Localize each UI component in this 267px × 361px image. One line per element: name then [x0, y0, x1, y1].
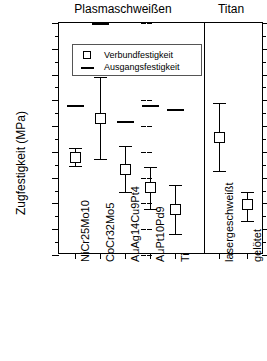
y-tick-800 [52, 49, 59, 50]
x-tick-1 [100, 253, 101, 259]
y-tick-600 [262, 100, 267, 101]
y-tick-100 [52, 229, 59, 230]
divider-tick-left-900 [141, 23, 146, 24]
y-minor-tick-50 [55, 242, 59, 243]
verbundfestigkeit-marker-1 [95, 113, 106, 124]
verbundfestigkeit-marker-6 [242, 199, 253, 210]
y-tick-800 [262, 49, 267, 50]
verbundfestigkeit-marker-2 [120, 164, 131, 175]
chart-legend: Verbundfestigkeit Ausgangsfestigkeit [72, 44, 202, 76]
error-cap-5-lower [213, 171, 226, 172]
x-axis-label-5: lasergeschweißt [223, 183, 235, 262]
x-axis-label-1: CoCr32Mo5 [104, 203, 116, 262]
x-tick-2 [125, 253, 126, 259]
x-axis-label-2: AuAg14Cu9Pt4 [129, 186, 141, 262]
error-cap-4-lower [169, 234, 182, 235]
y-minor-tick-250 [55, 191, 59, 192]
y-tick-300 [52, 178, 59, 179]
ausgangsfestigkeit-marker-0 [67, 105, 84, 107]
y-minor-tick-650 [262, 87, 266, 88]
y-tick-600 [52, 100, 59, 101]
x-tick-3 [150, 253, 151, 259]
divider-tick-right-600 [147, 100, 152, 101]
panel-title-titan: Titan [203, 2, 259, 16]
y-tick-700 [52, 75, 59, 76]
divider-tick-left-600 [141, 100, 146, 101]
error-cap-2-upper [119, 146, 132, 147]
legend-label-verbundfestigkeit: Verbundfestigkeit [104, 50, 173, 60]
divider-tick-right-900 [147, 23, 152, 24]
divider-tick-right-400 [147, 152, 152, 153]
verbundfestigkeit-marker-3 [145, 182, 156, 193]
y-tick-200 [262, 203, 267, 204]
y-minor-tick-450 [262, 139, 266, 140]
y-tick-900 [262, 23, 267, 24]
y-tick-200 [52, 203, 59, 204]
divider-tick-left-400 [141, 152, 146, 153]
x-axis-label-6: gelötet [251, 229, 263, 262]
y-tick-0 [52, 255, 59, 256]
divider-tick-right-100 [147, 229, 152, 230]
legend-marker-verbundfestigkeit [83, 51, 91, 59]
divider-tick-left-500 [141, 126, 146, 127]
ausgangsfestigkeit-marker-1 [92, 23, 109, 25]
y-minor-tick-150 [55, 216, 59, 217]
legend-label-ausgangsfestigkeit: Ausgangsfestigkeit [104, 62, 180, 72]
panel-divider [204, 23, 205, 253]
x-tick-6 [247, 253, 248, 259]
error-cap-1-lower [94, 159, 107, 160]
divider-tick-left-100 [141, 229, 146, 230]
y-axis-title: Zugfestigkeit (MPa) [14, 111, 28, 215]
y-minor-tick-650 [55, 87, 59, 88]
y-minor-tick-250 [262, 191, 266, 192]
divider-tick-left-0 [141, 255, 146, 256]
chart-figure: Plasmaschweißen Titan Zugfestigkeit (MPa… [0, 0, 267, 361]
divider-tick-left-300 [141, 178, 146, 179]
y-tick-400 [262, 152, 267, 153]
divider-tick-right-500 [147, 126, 152, 127]
y-minor-tick-850 [55, 36, 59, 37]
y-minor-tick-150 [262, 216, 266, 217]
y-tick-500 [52, 126, 59, 127]
error-cap-0-lower [69, 166, 82, 167]
ausgangsfestigkeit-marker-3 [142, 105, 159, 107]
y-minor-tick-550 [262, 113, 266, 114]
y-tick-900 [52, 23, 59, 24]
x-tick-5 [219, 253, 220, 259]
error-cap-3-upper [144, 167, 157, 168]
y-minor-tick-450 [55, 139, 59, 140]
y-minor-tick-750 [262, 62, 266, 63]
error-cap-6-upper [241, 192, 254, 193]
y-minor-tick-750 [55, 62, 59, 63]
panel-title-plasmaschweissen: Plasmaschweißen [62, 2, 184, 16]
y-tick-400 [52, 152, 59, 153]
x-axis-label-3: AuPt10Pd9 [154, 206, 166, 262]
divider-tick-left-200 [141, 203, 146, 204]
x-axis-label-4: Ti [179, 253, 191, 262]
y-tick-500 [262, 126, 267, 127]
y-tick-300 [262, 178, 267, 179]
verbundfestigkeit-marker-5 [214, 132, 225, 143]
x-tick-4 [175, 253, 176, 259]
verbundfestigkeit-marker-0 [70, 152, 81, 163]
error-cap-6-lower [241, 221, 254, 222]
y-minor-tick-550 [55, 113, 59, 114]
error-cap-5-upper [213, 103, 226, 104]
x-tick-0 [75, 253, 76, 259]
y-minor-tick-850 [262, 36, 266, 37]
ausgangsfestigkeit-marker-4 [167, 109, 184, 111]
x-axis-label-0: NiCr25Mo10 [79, 200, 91, 262]
error-cap-0-upper [69, 148, 82, 149]
error-cap-1-upper [94, 77, 107, 78]
error-cap-4-upper [169, 185, 182, 186]
y-minor-tick-350 [55, 165, 59, 166]
y-tick-700 [262, 75, 267, 76]
ausgangsfestigkeit-marker-2 [117, 121, 134, 123]
verbundfestigkeit-marker-4 [170, 204, 181, 215]
y-minor-tick-350 [262, 165, 266, 166]
legend-marker-ausgangsfestigkeit [81, 67, 94, 69]
